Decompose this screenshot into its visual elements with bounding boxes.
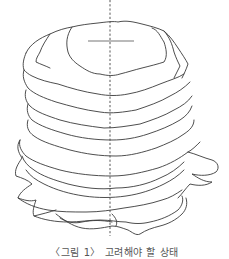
layer-top-left-fold [36, 34, 50, 68]
figure-caption: 〈그림 1〉 고려해야 할 상태 [0, 244, 229, 259]
layer-3 [23, 70, 190, 113]
layer-top-inner [67, 27, 167, 76]
layer-7 [19, 140, 200, 176]
layer-2 [23, 53, 184, 96]
layer-top-outer [26, 21, 188, 78]
layer-bottom-fold [112, 214, 117, 226]
layer-10 [18, 190, 182, 212]
layer-8 [22, 156, 184, 189]
layer-9 [26, 170, 184, 198]
layer-right-flap [178, 152, 218, 198]
